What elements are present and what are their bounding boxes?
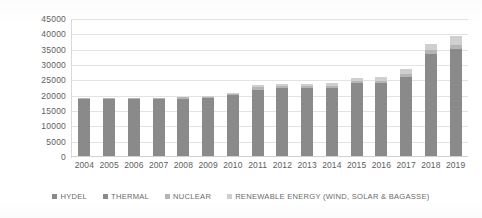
bar-stack	[400, 69, 412, 157]
bar-column-2005[interactable]	[97, 19, 122, 157]
bar-column-2008[interactable]	[171, 19, 196, 157]
bar-series-group	[72, 19, 468, 157]
bar-column-2015[interactable]	[344, 19, 369, 157]
y-axis-tick-labels: 0500010000150002000025000300003500040000…	[0, 19, 66, 157]
bar-stack	[153, 98, 165, 157]
bar-segment-thermal-2006	[128, 99, 140, 137]
bar-segment-thermal-2015	[351, 83, 363, 136]
bar-stack	[128, 98, 140, 157]
bar-column-2012[interactable]	[270, 19, 295, 157]
legend-label: THERMAL	[111, 192, 149, 201]
bar-segment-renewable-2019	[450, 36, 462, 45]
bar-stack	[276, 84, 288, 157]
bar-column-2018[interactable]	[419, 19, 444, 157]
stacked-bar-chart: 0500010000150002000025000300003500040000…	[0, 0, 482, 218]
bar-segment-hydel-2019	[450, 135, 462, 157]
bar-stack	[177, 97, 189, 157]
y-axis-tick-25000: 25000	[41, 75, 66, 85]
bar-stack	[78, 98, 90, 157]
x-axis-tick-2004: 2004	[72, 160, 97, 174]
bar-segment-thermal-2012	[276, 88, 288, 136]
y-axis-tick-30000: 30000	[41, 60, 66, 70]
bar-stack	[375, 77, 387, 157]
bar-stack	[450, 36, 462, 157]
y-axis-tick-20000: 20000	[41, 91, 66, 101]
bar-segment-hydel-2015	[351, 136, 363, 157]
bar-segment-hydel-2010	[227, 137, 239, 157]
bar-column-2019[interactable]	[443, 19, 468, 157]
bar-segment-thermal-2009	[202, 98, 214, 137]
bar-stack	[425, 44, 437, 157]
y-axis-tick-40000: 40000	[41, 29, 66, 39]
y-axis-tick-35000: 35000	[41, 45, 66, 55]
bar-segment-thermal-2008	[177, 99, 189, 137]
x-axis-tick-2016: 2016	[369, 160, 394, 174]
x-axis-baseline	[72, 156, 468, 157]
bar-column-2013[interactable]	[295, 19, 320, 157]
y-axis-tick-0: 0	[61, 152, 66, 162]
y-axis-tick-45000: 45000	[41, 14, 66, 24]
bar-segment-thermal-2013	[301, 88, 313, 136]
bar-segment-hydel-2016	[375, 136, 387, 157]
legend-item-0[interactable]: HYDEL	[52, 192, 87, 201]
plot-area	[72, 19, 468, 157]
bar-segment-hydel-2014	[326, 136, 338, 157]
legend-swatch-icon	[165, 194, 170, 199]
bar-stack	[326, 83, 338, 157]
x-axis-tick-2007: 2007	[146, 160, 171, 174]
legend-label: RENEWABLE ENERGY (WIND, SOLAR & BAGASSE)	[235, 192, 429, 201]
bar-segment-hydel-2018	[425, 135, 437, 157]
bar-segment-thermal-2004	[78, 99, 90, 137]
legend-label: HYDEL	[60, 192, 87, 201]
x-axis-tick-2019: 2019	[443, 160, 468, 174]
bar-stack	[103, 98, 115, 157]
bar-column-2004[interactable]	[72, 19, 97, 157]
bar-segment-hydel-2012	[276, 137, 288, 157]
legend-swatch-icon	[227, 194, 232, 199]
bar-segment-hydel-2007	[153, 137, 165, 157]
bar-segment-thermal-2019	[450, 49, 462, 135]
bar-segment-hydel-2009	[202, 137, 214, 157]
bar-column-2009[interactable]	[196, 19, 221, 157]
bar-segment-hydel-2013	[301, 137, 313, 157]
x-axis-tick-2009: 2009	[196, 160, 221, 174]
bar-column-2011[interactable]	[245, 19, 270, 157]
bar-column-2017[interactable]	[394, 19, 419, 157]
legend-item-3[interactable]: RENEWABLE ENERGY (WIND, SOLAR & BAGASSE)	[227, 192, 429, 201]
bar-column-2016[interactable]	[369, 19, 394, 157]
x-axis-tick-2013: 2013	[295, 160, 320, 174]
bar-segment-thermal-2014	[326, 88, 338, 136]
y-axis-tick-10000: 10000	[41, 121, 66, 131]
x-axis-tick-2011: 2011	[245, 160, 270, 174]
x-axis-tick-2008: 2008	[171, 160, 196, 174]
bar-segment-hydel-2005	[103, 137, 115, 157]
bar-segment-thermal-2005	[103, 99, 115, 137]
x-axis-tick-2005: 2005	[97, 160, 122, 174]
bar-segment-hydel-2006	[128, 137, 140, 157]
bar-column-2010[interactable]	[221, 19, 246, 157]
bar-segment-hydel-2008	[177, 137, 189, 157]
bar-column-2007[interactable]	[146, 19, 171, 157]
bar-segment-hydel-2017	[400, 136, 412, 157]
legend-item-2[interactable]: NUCLEAR	[165, 192, 211, 201]
bar-column-2014[interactable]	[320, 19, 345, 157]
x-axis-tick-2017: 2017	[394, 160, 419, 174]
bar-column-2006[interactable]	[122, 19, 147, 157]
bar-stack	[351, 78, 363, 157]
legend-swatch-icon	[52, 194, 57, 199]
x-axis-tick-2010: 2010	[221, 160, 246, 174]
bar-stack	[252, 85, 264, 157]
bar-segment-thermal-2010	[227, 95, 239, 137]
x-axis-tick-2014: 2014	[320, 160, 345, 174]
x-axis-tick-2006: 2006	[122, 160, 147, 174]
x-axis-tick-2018: 2018	[419, 160, 444, 174]
x-axis-tick-labels: 2004200520062007200820092010201120122013…	[72, 160, 468, 174]
bar-segment-thermal-2016	[375, 83, 387, 136]
bar-stack	[202, 96, 214, 157]
bar-segment-thermal-2011	[252, 90, 264, 138]
legend-item-1[interactable]: THERMAL	[103, 192, 149, 201]
chart-legend: HYDELTHERMALNUCLEARRENEWABLE ENERGY (WIN…	[0, 192, 482, 201]
legend-label: NUCLEAR	[173, 192, 211, 201]
y-axis-tick-5000: 5000	[46, 137, 66, 147]
bar-stack	[301, 84, 313, 157]
